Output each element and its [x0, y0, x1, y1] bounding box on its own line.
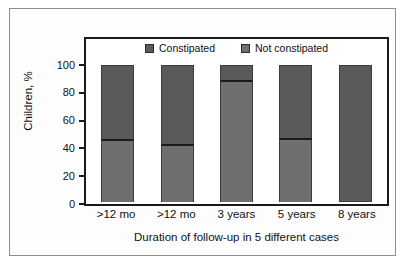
y-tick-label: 20: [63, 171, 75, 182]
legend-item-not-constipated: Not constipated: [241, 43, 328, 54]
y-tick-mark: [79, 175, 84, 177]
legend-item-constipated: Constipated: [145, 43, 215, 54]
chart-legend: Constipated Not constipated: [86, 43, 387, 54]
y-tick-mark: [79, 64, 84, 66]
bar-4: [279, 65, 312, 202]
figure-border: Constipated Not constipated 100806040200…: [9, 8, 396, 256]
x-tick-label-1: >12 mo: [88, 208, 144, 220]
bar-3: [220, 65, 253, 202]
legend-label-constipated: Constipated: [159, 43, 215, 54]
bar-5: [339, 65, 372, 202]
y-tick-label: 40: [63, 143, 75, 154]
bar-segment-constipated: [339, 65, 372, 202]
bar-segment-constipated: [101, 65, 134, 139]
figure: Constipated Not constipated 100806040200…: [0, 0, 405, 265]
y-tick-label: 60: [63, 115, 75, 126]
bar-segment-constipated: [220, 65, 253, 80]
bar-segment-not-constipated: [161, 144, 194, 202]
plot-area: Constipated Not constipated: [84, 37, 389, 206]
legend-label-not-constipated: Not constipated: [255, 43, 328, 54]
x-tick-label-2: >12 mo: [148, 208, 204, 220]
legend-swatch-constipated: [145, 44, 154, 53]
bar-2: [161, 65, 194, 202]
y-tick-label: 80: [63, 87, 75, 98]
y-tick-mark: [79, 120, 84, 122]
y-axis-title: Children, %: [22, 41, 34, 161]
bar-segment-not-constipated: [279, 138, 312, 202]
y-tick-mark: [79, 147, 84, 149]
bar-segment-constipated: [279, 65, 312, 138]
y-tick-mark: [79, 203, 84, 205]
bar-segment-not-constipated: [101, 139, 134, 202]
plot-inner: [88, 65, 385, 202]
x-axis: >12 mo>12 mo3 years5 years8 years: [86, 208, 387, 220]
x-axis-title: Duration of follow-up in 5 different cas…: [84, 231, 389, 243]
x-tick-label-3: 3 years: [208, 208, 264, 220]
legend-swatch-not-constipated: [241, 44, 250, 53]
y-tick-label: 100: [57, 60, 75, 71]
bar-group: [88, 65, 385, 202]
bar-1: [101, 65, 134, 202]
bar-segment-not-constipated: [220, 80, 253, 202]
y-tick-label: 0: [69, 199, 75, 210]
bar-segment-constipated: [161, 65, 194, 144]
x-tick-label-4: 5 years: [269, 208, 325, 220]
x-tick-label-5: 8 years: [329, 208, 385, 220]
y-tick-mark: [79, 92, 84, 94]
